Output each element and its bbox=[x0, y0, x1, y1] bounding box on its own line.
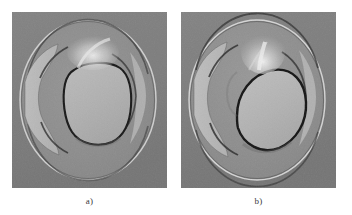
panel-b-caption: b) bbox=[181, 196, 336, 206]
figure-panel-a bbox=[12, 12, 167, 188]
figure-panel-b bbox=[181, 12, 336, 188]
figure-root: a) b) bbox=[0, 0, 352, 215]
panel-b-image bbox=[181, 12, 336, 188]
panel-a-caption: a) bbox=[12, 196, 167, 206]
panel-a-image bbox=[12, 12, 167, 188]
